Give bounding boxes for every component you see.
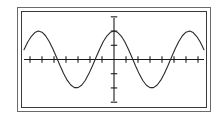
plot-area <box>22 12 206 107</box>
sine-wave-plot <box>22 12 206 107</box>
graph-screenshot <box>0 0 222 120</box>
